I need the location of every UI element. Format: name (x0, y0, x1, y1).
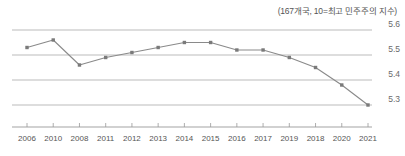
data-point-2012 (130, 51, 133, 54)
x-axis-label-2021: 2021 (359, 134, 377, 143)
x-axis-label-2014: 2014 (175, 134, 193, 143)
x-axis-label-2012: 2012 (123, 134, 141, 143)
x-axis-label-2019: 2019 (280, 134, 298, 143)
y-axis-label-5.4: 5.4 (388, 69, 400, 80)
data-point-2017 (261, 48, 264, 51)
data-point-2014 (183, 41, 186, 44)
y-axis-label-5.5: 5.5 (388, 44, 400, 55)
democracy-index-line-chart: (167개국, 10=최고 민주주의 지수) 5.65.55.45.3 2006… (0, 0, 405, 156)
x-axis-label-2016: 2016 (228, 134, 246, 143)
chart-canvas (0, 0, 405, 156)
data-point-2013 (156, 46, 159, 49)
y-axis-label-5.3: 5.3 (388, 94, 400, 105)
x-axis-label-2011: 2011 (97, 134, 114, 143)
data-point-2018 (314, 66, 317, 69)
data-line (27, 40, 368, 105)
x-axis-label-2017: 2017 (254, 134, 272, 143)
data-point-2010 (52, 38, 55, 41)
x-axis-label-2008: 2008 (71, 134, 89, 143)
x-axis-label-2010: 2010 (44, 134, 62, 143)
gridlines-group (12, 30, 372, 105)
data-point-2019 (288, 56, 291, 59)
x-axis-label-2006: 2006 (18, 134, 36, 143)
data-point-2016 (235, 48, 238, 51)
x-axis-label-2015: 2015 (202, 134, 220, 143)
y-axis-label-5.6: 5.6 (388, 19, 400, 30)
data-point-2015 (209, 41, 212, 44)
data-point-2008 (78, 63, 81, 66)
x-axis-label-2020: 2020 (333, 134, 351, 143)
x-axis-ticks-group (27, 123, 368, 127)
data-point-markers-group (25, 38, 369, 106)
data-point-2006 (25, 46, 28, 49)
data-point-2020 (340, 83, 343, 86)
x-axis-label-2013: 2013 (149, 134, 167, 143)
x-axis-label-2018: 2018 (307, 134, 325, 143)
data-point-2011 (104, 56, 107, 59)
data-point-2021 (366, 103, 369, 106)
plot-area: 5.65.55.45.3 200620102008201120122013201… (0, 0, 405, 156)
